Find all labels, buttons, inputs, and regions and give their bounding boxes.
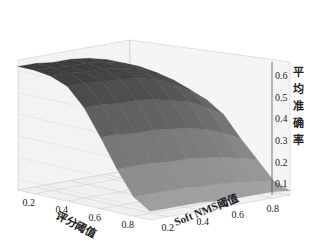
- z-tick-label: 0.2: [275, 157, 288, 168]
- zlabel-char-2: 准: [293, 99, 304, 112]
- z-tick-label: 0.4: [275, 113, 288, 124]
- zlabel-char-0: 平: [293, 66, 304, 78]
- z-tick-label: 0.6: [275, 70, 288, 81]
- x-tick-label: 0.6: [89, 212, 102, 223]
- x-tick-label: 0.8: [122, 219, 135, 230]
- zlabel-char-3: 确: [293, 116, 304, 129]
- zlabel-char-1: 均: [293, 82, 304, 95]
- z-tick-label: 0.1: [275, 178, 288, 189]
- y-tick-label: 0.2: [162, 222, 175, 233]
- z-tick-label: 0.3: [275, 135, 288, 146]
- z-axis-title: 平 均 准 确 率: [293, 66, 304, 146]
- y-tick-label: 0.6: [232, 209, 245, 220]
- x-tick-label: 0.2: [23, 197, 36, 208]
- z-tick-label: 0.5: [275, 92, 288, 103]
- zlabel-char-4: 率: [293, 133, 304, 146]
- y-tick-label: 0.8: [267, 203, 280, 214]
- surface-chart: 0.10.20.30.40.50.60.20.40.60.80.20.40.60…: [0, 0, 310, 244]
